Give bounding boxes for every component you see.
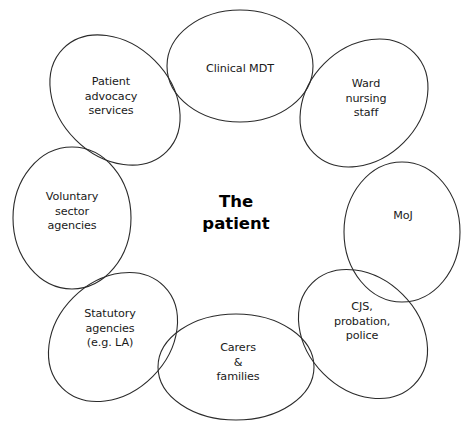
- center-label-the-patient: The patient: [202, 191, 269, 235]
- ellipse-clinical-mdt: [167, 10, 313, 122]
- ellipse-moj: [344, 162, 460, 302]
- ellipse-statutory-agencies: [22, 246, 203, 427]
- stakeholder-ring-diagram: Clinical MDTWard nursing staffMoJCJS, pr…: [0, 0, 470, 432]
- ellipse-carers-and-families: [158, 314, 314, 420]
- ellipse-ward-nursing-staff: [274, 13, 454, 193]
- ellipse-voluntary-sector-agencies: [13, 147, 131, 289]
- ellipse-patient-advocacy-services: [24, 9, 206, 191]
